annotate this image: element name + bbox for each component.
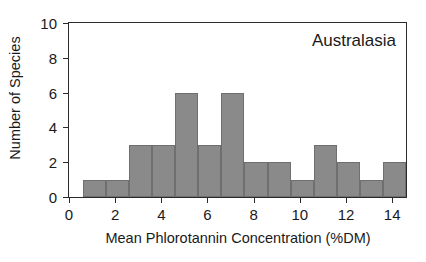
plot-area: 0246810 02468101214 Australasia xyxy=(68,22,407,198)
histogram-bar xyxy=(106,180,129,197)
histogram-bar xyxy=(268,162,291,197)
x-tick-label: 4 xyxy=(157,206,165,223)
y-tick xyxy=(63,58,69,59)
histogram-bar xyxy=(314,145,337,197)
y-tick-label: 8 xyxy=(49,49,57,66)
y-tick xyxy=(63,23,69,24)
x-axis-title: Mean Phlorotannin Concentration (%DM) xyxy=(68,230,408,246)
y-tick xyxy=(63,127,69,128)
x-tick xyxy=(300,197,301,203)
x-tick xyxy=(392,197,393,203)
histogram-bar xyxy=(129,145,152,197)
y-tick-label: 10 xyxy=(40,15,57,32)
x-tick xyxy=(69,197,70,203)
y-tick-label: 4 xyxy=(49,119,57,136)
x-tick-label: 8 xyxy=(249,206,257,223)
x-tick xyxy=(115,197,116,203)
y-tick-label: 2 xyxy=(49,154,57,171)
region-annotation: Australasia xyxy=(312,31,396,51)
x-tick xyxy=(254,197,255,203)
histogram-bar xyxy=(152,145,175,197)
x-tick xyxy=(207,197,208,203)
x-tick-label: 2 xyxy=(111,206,119,223)
histogram-bar xyxy=(291,180,314,197)
y-tick xyxy=(63,93,69,94)
histogram-figure: Number of Species 0246810 02468101214 Au… xyxy=(0,0,426,262)
y-tick xyxy=(63,162,69,163)
x-tick-label: 14 xyxy=(384,206,401,223)
histogram-bar xyxy=(83,180,106,197)
x-tick xyxy=(161,197,162,203)
histogram-bar xyxy=(198,145,221,197)
histogram-bar xyxy=(244,162,267,197)
histogram-bar xyxy=(175,93,198,197)
x-tick-label: 0 xyxy=(65,206,73,223)
x-tick-label: 12 xyxy=(338,206,355,223)
x-tick-label: 10 xyxy=(291,206,308,223)
histogram-bar xyxy=(360,180,383,197)
x-tick-label: 6 xyxy=(203,206,211,223)
histogram-bar xyxy=(337,162,360,197)
y-axis-title: Number of Species xyxy=(4,0,26,198)
histogram-bar xyxy=(221,93,244,197)
y-tick-label: 0 xyxy=(49,189,57,206)
histogram-bar xyxy=(383,162,406,197)
y-tick-label: 6 xyxy=(49,84,57,101)
x-tick xyxy=(346,197,347,203)
